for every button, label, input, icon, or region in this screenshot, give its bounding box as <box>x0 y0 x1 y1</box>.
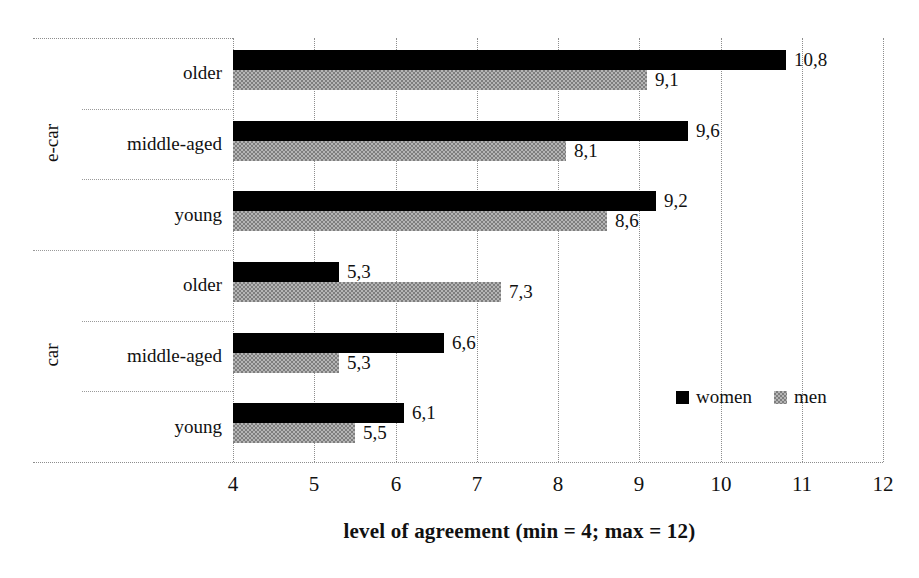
bar-value-label: 5,3 <box>347 262 371 282</box>
x-tick-6: 6 <box>366 472 426 497</box>
bar-value-label: 8,1 <box>574 141 598 161</box>
bar-value-label: 8,6 <box>615 211 639 231</box>
x-tick-8: 8 <box>528 472 588 497</box>
bar-chart: 10,89,19,68,19,28,65,37,36,65,36,15,5 ol… <box>0 0 919 578</box>
gridline-12 <box>883 38 884 462</box>
bar-value-label: 10,8 <box>794 50 827 70</box>
bar-women-3[interactable] <box>233 262 339 282</box>
bar-value-label: 5,5 <box>363 423 387 443</box>
gray-square-icon <box>774 391 787 404</box>
legend-item-women[interactable]: women <box>676 386 752 408</box>
x-tick-7: 7 <box>447 472 507 497</box>
black-square-icon <box>676 391 689 404</box>
gridline-6 <box>396 38 397 462</box>
x-axis-line <box>33 462 883 463</box>
category-label-young: young <box>0 205 222 225</box>
group-separator <box>33 250 233 251</box>
x-tick-10: 10 <box>691 472 751 497</box>
bar-women-0[interactable] <box>233 50 786 70</box>
bar-men-4[interactable] <box>233 353 339 373</box>
bar-value-label: 6,6 <box>452 333 476 353</box>
legend: women men <box>676 386 827 408</box>
x-tick-12: 12 <box>853 472 913 497</box>
bar-women-2[interactable] <box>233 191 656 211</box>
bar-women-5[interactable] <box>233 403 404 423</box>
category-separator <box>82 391 233 392</box>
bar-men-0[interactable] <box>233 70 647 90</box>
gridline-4 <box>233 38 234 462</box>
bar-value-label: 7,3 <box>509 282 533 302</box>
category-label-older: older <box>0 63 222 83</box>
legend-label-men: men <box>794 386 827 408</box>
bar-value-label: 9,2 <box>664 191 688 211</box>
bar-value-label: 9,1 <box>655 70 679 90</box>
gridline-8 <box>558 38 559 462</box>
bar-women-1[interactable] <box>233 121 688 141</box>
bar-men-5[interactable] <box>233 423 355 443</box>
x-tick-4: 4 <box>203 472 263 497</box>
group-label-car: car <box>41 303 63 407</box>
x-tick-5: 5 <box>284 472 344 497</box>
category-label-middle-aged: middle-aged <box>0 134 222 154</box>
x-tick-11: 11 <box>772 472 832 497</box>
category-label-older: older <box>0 275 222 295</box>
bar-men-1[interactable] <box>233 141 566 161</box>
category-label-middle-aged: middle-aged <box>0 346 222 366</box>
category-separator <box>82 321 233 322</box>
bar-value-label: 5,3 <box>347 353 371 373</box>
legend-item-men[interactable]: men <box>774 386 827 408</box>
category-label-young: young <box>0 417 222 437</box>
category-separator <box>82 179 233 180</box>
plot-top-border <box>33 38 233 39</box>
x-axis-title: level of agreement (min = 4; max = 12) <box>0 519 919 544</box>
bar-women-4[interactable] <box>233 333 444 353</box>
legend-label-women: women <box>696 386 752 408</box>
x-tick-9: 9 <box>609 472 669 497</box>
group-label-e-car: e-car <box>41 91 63 195</box>
gridline-7 <box>477 38 478 462</box>
bar-men-3[interactable] <box>233 282 501 302</box>
bar-men-2[interactable] <box>233 211 607 231</box>
gridline-9 <box>639 38 640 462</box>
gridline-5 <box>314 38 315 462</box>
category-separator <box>82 109 233 110</box>
bar-value-label: 6,1 <box>412 403 436 423</box>
bar-value-label: 9,6 <box>696 121 720 141</box>
